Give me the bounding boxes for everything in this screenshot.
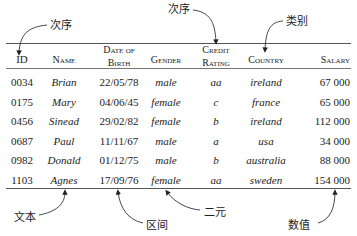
annotation-arrows <box>0 0 357 236</box>
arrow-dob <box>118 192 143 223</box>
arrow-salary <box>318 192 335 223</box>
data-types-diagram: IDNameDate ofBirthGenderCreditRatingCoun… <box>0 0 357 236</box>
arrow-gender <box>167 192 200 210</box>
arrow-credit <box>193 10 216 42</box>
arrow-country <box>265 21 283 50</box>
arrow-name <box>39 192 65 215</box>
arrow-id <box>19 25 47 53</box>
